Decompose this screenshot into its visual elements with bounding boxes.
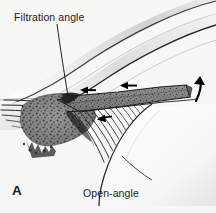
open-angle-caption: Open-angle [83, 188, 139, 199]
anatomical-figure-open-angle: Filtration angle Open-angle A [0, 0, 216, 213]
filtration-angle-label: Filtration angle [14, 12, 84, 23]
eye-anterior-chamber-angle-illustration [0, 0, 216, 213]
panel-letter-label: A [12, 184, 22, 198]
